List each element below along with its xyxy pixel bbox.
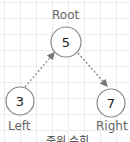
edge-root-to-right xyxy=(78,53,107,86)
right-label: Right xyxy=(96,120,128,132)
caption: 중위 순회 xyxy=(46,136,90,142)
root-value: 5 xyxy=(51,36,81,49)
left-label: Left xyxy=(8,120,31,132)
right-value: 7 xyxy=(96,97,126,110)
left-value: 3 xyxy=(5,95,35,108)
root-label: Root xyxy=(52,9,79,21)
edge-left-to-root xyxy=(25,53,54,87)
